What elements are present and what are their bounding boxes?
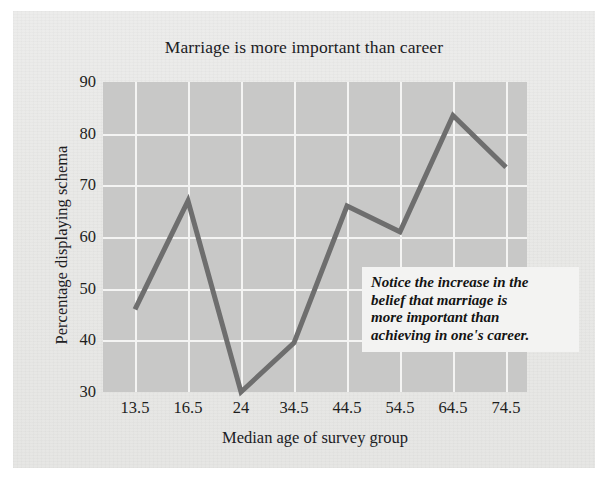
annotation-line: more important than	[371, 309, 571, 327]
y-axis-tick-labels: 90 80 70 60 50 40 30	[48, 82, 96, 392]
y-tick-label: 60	[52, 229, 96, 246]
x-tick-label: 74.5	[471, 400, 541, 417]
y-tick-label: 30	[52, 384, 96, 401]
y-tick-label: 90	[52, 74, 96, 91]
chart-title: Marriage is more important than career	[0, 37, 608, 58]
annotation-callout: Notice the increase in the belief that m…	[362, 267, 579, 352]
y-tick-label: 80	[52, 126, 96, 143]
annotation-line: Notice the increase in the	[371, 274, 571, 292]
y-tick-label: 70	[52, 177, 96, 194]
x-axis-title: Median age of survey group	[103, 428, 527, 448]
annotation-line: belief that marriage is	[371, 292, 571, 310]
y-tick-label: 40	[52, 332, 96, 349]
chart-page: Marriage is more important than career P…	[0, 0, 608, 489]
y-tick-label: 50	[52, 281, 96, 298]
x-axis-tick-labels: 13.5 16.5 24 34.5 44.5 54.5 64.5 74.5	[103, 400, 527, 422]
annotation-line: achieving in one's career.	[371, 327, 571, 345]
